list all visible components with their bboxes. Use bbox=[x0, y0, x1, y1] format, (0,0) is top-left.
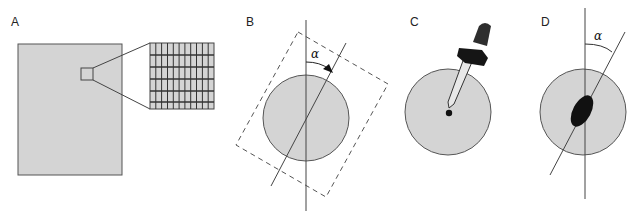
alpha-label-b: α bbox=[311, 47, 319, 61]
panel-a: A bbox=[11, 15, 214, 175]
sample-rectangle bbox=[18, 44, 122, 175]
figure-canvas: A bbox=[0, 0, 633, 217]
panel-d-label: D bbox=[541, 15, 550, 29]
panel-b-label: B bbox=[246, 15, 254, 29]
panel-c: C bbox=[405, 15, 491, 155]
panel-c-label: C bbox=[410, 15, 419, 29]
magnified-grid bbox=[150, 43, 214, 109]
panel-a-label: A bbox=[11, 15, 19, 29]
angle-arc-d bbox=[585, 44, 612, 52]
panel-b: B α bbox=[236, 15, 388, 211]
drop bbox=[446, 110, 452, 116]
magnify-region bbox=[81, 68, 93, 80]
arrowhead-icon bbox=[323, 64, 333, 73]
alpha-label-d: α bbox=[594, 29, 602, 43]
panel-d: D α bbox=[540, 8, 626, 199]
